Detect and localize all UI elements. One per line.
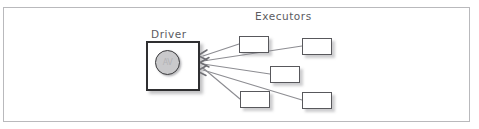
executor-node-1[interactable]: [239, 36, 269, 53]
diagram-canvas: Driver Executors AV: [0, 0, 479, 129]
executor-node-4[interactable]: [240, 91, 270, 108]
diagram-frame: [3, 7, 470, 122]
driver-label: Driver: [151, 28, 187, 40]
executor-node-3[interactable]: [270, 66, 300, 83]
driver-core-label: AV: [156, 51, 179, 74]
executor-node-2[interactable]: [302, 38, 332, 55]
executor-node-5[interactable]: [302, 92, 332, 109]
executors-label: Executors: [255, 10, 312, 22]
driver-core-circle[interactable]: AV: [155, 50, 180, 75]
